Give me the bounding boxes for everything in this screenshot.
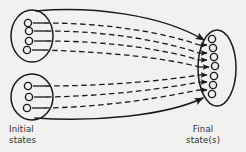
dashed-transitions-upper <box>43 23 199 67</box>
final-state-node <box>210 53 217 60</box>
final-state-node <box>208 35 215 42</box>
initial-states-upper-boundary <box>11 10 53 62</box>
dashed-line <box>46 82 199 97</box>
final-states-group <box>198 30 236 106</box>
initial-states-label: Initial states <box>9 124 36 145</box>
initial-states-label-line2: states <box>9 135 36 146</box>
initial-state-node <box>24 19 31 26</box>
dashed-line <box>46 41 199 60</box>
initial-states-label-line1: Initial <box>9 124 36 135</box>
initial-state-node <box>24 82 31 89</box>
initial-state-node <box>25 93 32 100</box>
dashed-transitions-lower <box>44 75 199 108</box>
envelope-bottom-curve <box>35 98 203 119</box>
initial-states-upper-group <box>11 10 53 62</box>
initial-state-node <box>25 27 32 34</box>
final-states-label-line1: Final <box>186 124 220 135</box>
figure-root: Initial states Final state(s) <box>0 0 246 152</box>
final-state-node <box>211 62 218 69</box>
initial-state-node <box>23 46 30 53</box>
dashed-line <box>43 50 199 67</box>
final-states-label: Final state(s) <box>186 124 220 145</box>
final-state-node <box>209 81 216 88</box>
final-states-label-line2: state(s) <box>186 135 220 146</box>
final-state-node <box>208 90 215 97</box>
dashed-line <box>45 75 199 86</box>
final-state-node <box>209 44 216 51</box>
final-state-node <box>210 72 217 79</box>
initial-state-node <box>23 104 30 111</box>
initial-state-node <box>25 37 32 44</box>
